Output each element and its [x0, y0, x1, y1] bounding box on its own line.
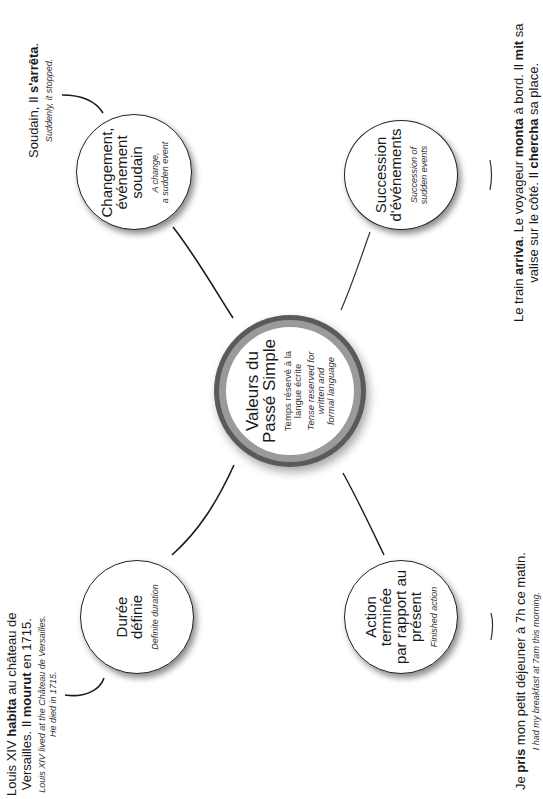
connector-center-succession	[341, 232, 370, 310]
example-succession-l1-mid2: à bord. Il	[511, 60, 526, 118]
example-action-verb-pris: pris	[513, 749, 528, 773]
example-duree: Louis XIV habita au château de Versaille…	[4, 612, 59, 796]
changement-sub-line2: a sudden event	[160, 127, 170, 217]
changement-sub-line1: A change,	[150, 127, 160, 217]
center-sub-en-line3: formal language	[326, 339, 336, 443]
node-changement: Changement, événement soudain A change, …	[76, 114, 192, 230]
connector-succession-example	[490, 160, 492, 190]
example-duree-l2-pre: Versailles. Il	[19, 717, 34, 790]
action-title-line2: terminée	[378, 570, 393, 664]
connector-changement-example	[62, 95, 103, 113]
connector-duree-example	[65, 678, 104, 696]
center-node: Valeurs du Passé Simple Temps réservé à …	[226, 327, 354, 455]
action-title-line1: Action	[363, 570, 378, 664]
changement-title-line2: événement	[114, 127, 129, 217]
action-title-line4: présent	[408, 570, 423, 664]
example-succession-verb-arriva: arriva	[511, 240, 526, 275]
example-duree-en-line2: He died in 1715.	[48, 612, 59, 796]
changement-title-line1: Changement,	[99, 127, 114, 217]
example-duree-l1-post: au château de	[4, 612, 19, 698]
example-succession-l1-pre: Le train	[511, 275, 526, 322]
example-succession: Le train arriva. Le voyageur monta à bor…	[511, 24, 541, 322]
example-duree-verb-mourut: mourut	[19, 672, 34, 717]
example-duree-l2-post: en 1715.	[19, 618, 34, 672]
example-action-en: I had my breakfast at 7am this morning.	[531, 552, 542, 790]
node-succession: Succession d'événements Succession of su…	[344, 120, 458, 230]
example-succession-l2-pre: valise sur le côté. Il	[526, 168, 541, 282]
example-action-fr-pre: Je	[513, 773, 528, 790]
example-duree-en-line1: Louis XIV lived at the Château de Versai…	[37, 612, 48, 796]
succession-title-line1: Succession	[373, 129, 388, 222]
action-title-line3: par rapport au	[393, 570, 408, 664]
duree-sub-line1: Definite duration	[150, 584, 160, 650]
example-changement: Soudain, Il s'arrêta. Suddenly, it stopp…	[26, 43, 55, 158]
example-succession-l1-post: sa	[511, 24, 526, 41]
connector-action-example	[491, 613, 493, 640]
example-duree-l1-pre: Louis XIV	[4, 737, 19, 796]
example-action: Je pris mon petit déjeuner à 7h ce matin…	[513, 552, 542, 790]
example-succession-verb-mit: mit	[511, 41, 526, 61]
succession-title-line2: d'événements	[388, 129, 403, 222]
duree-title-line1: Durée	[114, 584, 129, 650]
example-succession-l2-post: sa place.	[526, 63, 541, 119]
connector-center-duree	[172, 465, 234, 555]
succession-sub-line2: sudden events	[419, 129, 429, 222]
example-changement-fr-pre: Soudain, Il	[26, 93, 41, 158]
example-action-fr-post: mon petit déjeuner à 7h ce matin.	[513, 552, 528, 749]
duree-title-line2: définie	[129, 584, 144, 650]
node-action: Action terminée par rapport au présent F…	[344, 560, 458, 674]
connector-center-action	[343, 473, 384, 555]
example-changement-fr-verb: s'arrêta	[26, 46, 41, 92]
example-changement-fr-post: .	[26, 43, 41, 47]
example-succession-l1-mid: . Le voyageur	[511, 157, 526, 239]
succession-sub-line1: Succession of	[409, 129, 419, 222]
mind-map: Valeurs du Passé Simple Temps réservé à …	[0, 0, 543, 799]
example-succession-verb-chercha: chercha	[526, 119, 541, 169]
example-changement-en: Suddenly, it stopped.	[44, 43, 55, 158]
center-title-line1: Valeurs du	[244, 339, 261, 443]
connector-center-changement	[173, 227, 233, 318]
action-sub-line1: Finished action	[429, 570, 439, 664]
center-title-line2: Passé Simple	[261, 339, 278, 443]
center-sub-fr-line2: langue écrite	[293, 339, 303, 443]
changement-title-line3: soudain	[129, 127, 144, 217]
example-duree-verb-habita: habita	[4, 698, 19, 736]
example-succession-verb-monta: monta	[511, 118, 526, 157]
node-duree: Durée définie Definite duration	[80, 560, 194, 674]
